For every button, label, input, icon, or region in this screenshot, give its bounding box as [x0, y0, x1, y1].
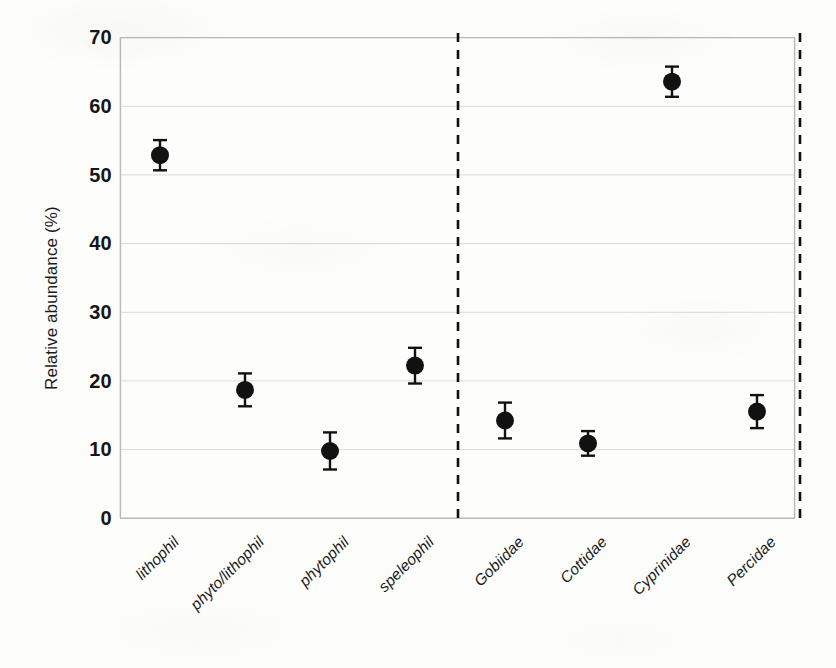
data-point-lithophil[interactable] [151, 140, 169, 170]
marker-dot [496, 412, 514, 430]
data-point-speleophil[interactable] [406, 348, 424, 384]
marker-dot [579, 434, 597, 452]
marker-dot [321, 442, 339, 460]
plot-canvas [0, 0, 836, 668]
figure-container: Relative abundance (%) 70 60 50 40 30 20… [0, 0, 836, 668]
data-point-phytophil[interactable] [321, 432, 339, 469]
marker-dot [663, 73, 681, 91]
data-point-percidae[interactable] [748, 395, 766, 428]
data-point-gobiidae[interactable] [496, 403, 514, 439]
data-point-cottidae[interactable] [579, 431, 597, 456]
marker-dot [236, 381, 254, 399]
marker-dot [151, 146, 169, 164]
data-point-cyprinidae[interactable] [663, 67, 681, 97]
data-point-phyto-lithophil[interactable] [236, 373, 254, 406]
marker-dot [748, 403, 766, 421]
marker-dot [406, 357, 424, 375]
